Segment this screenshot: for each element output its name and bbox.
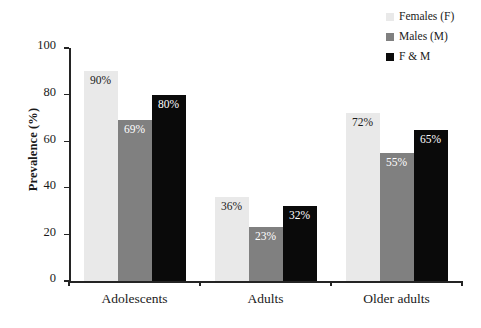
x-axis-category-label: Adolescents (102, 291, 168, 307)
legend-swatch-icon (386, 33, 394, 41)
x-axis-category-label: Adults (247, 291, 283, 307)
x-axis-line (69, 281, 462, 283)
bar-value-label: 80% (158, 99, 179, 111)
bar-2-0[interactable]: 72% (346, 113, 380, 281)
x-axis-tick (199, 281, 200, 286)
bar-value-label: 90% (90, 75, 111, 87)
y-axis-tick: 40 (64, 187, 69, 188)
bar-chart-figure: Females (F)Males (M)F & M Prevalence (%)… (0, 0, 481, 328)
bar-1-2[interactable]: 32% (283, 206, 317, 281)
bar-0-1[interactable]: 69% (118, 120, 152, 281)
y-axis-tick-label: 0 (50, 271, 56, 286)
bar-value-label: 36% (221, 201, 242, 213)
bar-value-label: 23% (255, 231, 276, 243)
bar-0-0[interactable]: 90% (84, 71, 118, 281)
y-axis-tick: 60 (64, 141, 69, 142)
y-axis-tick: 20 (64, 234, 69, 235)
legend-swatch-icon (386, 13, 394, 21)
bar-value-label: 32% (289, 210, 310, 222)
bar-2-2[interactable]: 65% (414, 130, 448, 281)
y-axis-tick-label: 80 (44, 85, 57, 100)
legend-item-0[interactable]: Females (F) (386, 7, 481, 27)
y-axis-tick: 80 (64, 94, 69, 95)
y-axis-line (69, 48, 71, 281)
x-axis-tick (461, 281, 462, 286)
x-axis-tick-origin (68, 281, 69, 286)
legend-item-label: Females (F) (399, 11, 454, 23)
y-axis-tick-label: 40 (44, 178, 57, 193)
legend-item-label: Males (M) (399, 31, 448, 43)
bar-value-label: 55% (386, 157, 407, 169)
y-axis-tick: 100 (64, 47, 69, 48)
plot-area: 020406080100 90%69%80%36%23%32%72%55%65%… (69, 48, 462, 281)
bar-value-label: 69% (124, 124, 145, 136)
bar-1-0[interactable]: 36% (215, 197, 249, 281)
legend-item-1[interactable]: Males (M) (386, 27, 481, 47)
y-axis-tick-label: 100 (37, 38, 56, 53)
bar-2-1[interactable]: 55% (380, 153, 414, 281)
bar-value-label: 72% (352, 117, 373, 129)
y-axis-title: Prevalence (%) (26, 70, 41, 230)
bar-1-1[interactable]: 23% (249, 227, 283, 281)
y-axis-tick-label: 60 (44, 132, 57, 147)
y-axis-tick-label: 20 (44, 225, 57, 240)
x-axis-category-label: Older adults (363, 291, 429, 307)
bar-0-2[interactable]: 80% (152, 95, 186, 281)
x-axis-tick (330, 281, 331, 286)
bar-value-label: 65% (420, 134, 441, 146)
